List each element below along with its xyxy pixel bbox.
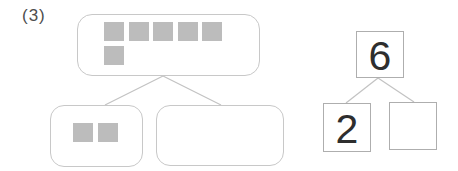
whole-tile-row-2 [104, 46, 124, 65]
whole-tile-row-1 [104, 22, 222, 41]
block-connector-right [163, 76, 221, 105]
bond-connector-left [346, 78, 378, 103]
bond-connector-right [378, 78, 414, 102]
counting-tile [202, 22, 222, 41]
number-bond-part-left: 2 [323, 103, 371, 152]
counting-tile [178, 22, 198, 41]
worksheet-problem: (3) 6 2 [0, 0, 458, 171]
counting-tile [73, 123, 93, 142]
counting-tile [104, 46, 124, 65]
number-bond-whole: 6 [356, 31, 404, 78]
block-part-right-box-empty [156, 105, 284, 166]
problem-number-label: (3) [22, 6, 46, 26]
counting-tile [104, 22, 124, 41]
block-whole-box [77, 14, 260, 76]
part-left-tile-row [73, 123, 118, 142]
counting-tile [153, 22, 173, 41]
block-connector-left [105, 76, 163, 105]
counting-tile [98, 123, 118, 142]
block-part-left-box [50, 105, 143, 167]
counting-tile [129, 22, 149, 41]
number-bond-part-right-empty [389, 102, 437, 150]
